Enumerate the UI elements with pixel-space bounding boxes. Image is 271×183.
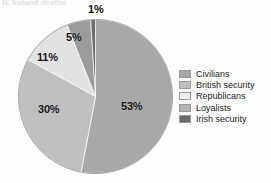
legend-item-loyalists[interactable]: Loyalists (179, 102, 269, 113)
legend-item-british-security[interactable]: British security (179, 79, 269, 90)
slice-value-label-0: 53% (121, 100, 142, 112)
legend-item-label: British security (196, 80, 255, 90)
legend-swatch-icon (179, 115, 191, 123)
legend: CiviliansBritish securityRepublicansLoya… (179, 68, 269, 125)
slice-value-label-2: 11% (37, 51, 58, 63)
legend-item-label: Loyalists (196, 103, 231, 113)
legend-item-republicans[interactable]: Republicans (179, 91, 269, 102)
slice-value-label-4: 1% (88, 3, 104, 15)
pie-chart-screenshot: N. Ireland deaths 53%30%11%5%1% Civilian… (0, 0, 271, 183)
pie-chart (18, 19, 173, 174)
legend-item-label: Civilians (196, 69, 230, 79)
pie-slices (18, 19, 172, 173)
legend-swatch-icon (179, 81, 191, 89)
legend-swatch-icon (179, 92, 191, 100)
legend-swatch-icon (179, 104, 191, 112)
slice-value-label-3: 5% (66, 31, 82, 43)
legend-item-label: Republicans (196, 91, 246, 101)
legend-item-irish-security[interactable]: Irish security (179, 114, 269, 125)
clipped-chart-title: N. Ireland deaths (2, 0, 82, 6)
legend-item-label: Irish security (196, 114, 247, 124)
legend-swatch-icon (179, 70, 191, 78)
plot-area: N. Ireland deaths 53%30%11%5%1% Civilian… (0, 0, 271, 183)
slice-value-label-1: 30% (38, 103, 59, 115)
pie-svg (18, 19, 173, 174)
legend-item-civilians[interactable]: Civilians (179, 68, 269, 79)
